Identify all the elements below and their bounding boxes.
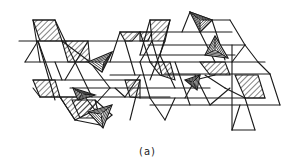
framework-edge	[232, 45, 245, 62]
framework-edge	[230, 20, 245, 45]
framework-edge	[140, 62, 150, 98]
framework-edge	[115, 88, 125, 97]
framework-edge	[182, 12, 190, 32]
framework-edge	[165, 98, 175, 120]
framework-edge	[245, 45, 258, 62]
polyhedral-framework-diagram	[0, 0, 295, 167]
framework-edge	[232, 105, 240, 130]
framework-edge	[25, 41, 38, 62]
framework-edge	[270, 74, 280, 105]
figure-caption: (a)	[0, 146, 295, 157]
hatched-parallelogram	[33, 80, 60, 97]
framework-edge	[245, 98, 255, 130]
hatched-parallelogram	[200, 62, 230, 75]
framework-edge	[150, 98, 165, 120]
hatched-parallelogram	[235, 75, 265, 98]
hatched-parallelogram	[33, 20, 62, 41]
framework-edge	[175, 62, 190, 105]
tetrahedron	[190, 12, 212, 32]
framework-edge	[110, 32, 120, 62]
framework-edge	[55, 62, 62, 80]
hatched-parallelogram	[120, 32, 140, 41]
framework-edge	[140, 41, 152, 62]
framework-edge	[258, 62, 270, 74]
framework-edge	[210, 88, 230, 105]
framework-edge	[125, 41, 135, 75]
tetrahedron	[205, 36, 228, 58]
